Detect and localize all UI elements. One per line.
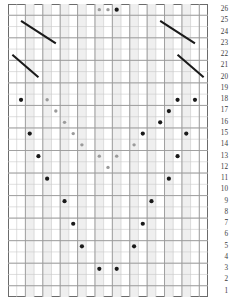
purl-dot [132,244,136,248]
row-label: 21 [221,62,228,69]
purl-dot [158,120,162,124]
row-label: 1 [224,288,228,295]
purl-dot [80,244,84,248]
row-label: 4 [224,254,228,261]
row-label: 8 [224,209,228,216]
row-label: 26 [221,6,228,13]
row-label: 19 [221,85,228,92]
purl-dot [184,131,188,135]
light-dot [98,154,101,157]
purl-dot [71,222,75,226]
chart-grid-svg [8,4,208,297]
row-label: 2 [224,276,228,283]
light-dot [106,166,109,169]
row-label: 23 [221,40,228,47]
light-dot [80,143,83,146]
row-label: 16 [221,119,228,126]
purl-dot [141,222,145,226]
row-label: 13 [221,153,228,160]
light-dot [54,109,57,112]
row-label: 22 [221,51,228,58]
purl-dot [62,199,66,203]
purl-dot [175,98,179,102]
row-label: 20 [221,74,228,81]
row-label: 9 [224,198,228,205]
row-number-labels: 2625242322212019181716151413121110987654… [210,4,230,297]
chart-grid-container[interactable] [8,4,208,297]
light-dot [106,8,109,11]
row-label: 3 [224,265,228,272]
light-dot [63,121,66,124]
purl-dot [175,154,179,158]
light-dot [72,132,75,135]
purl-dot [97,267,101,271]
row-label: 15 [221,130,228,137]
row-label: 24 [221,29,228,36]
purl-dot [115,8,119,12]
light-dot [115,154,118,157]
row-label: 5 [224,243,228,250]
purl-dot [28,131,32,135]
purl-dot [167,109,171,113]
light-dot [98,8,101,11]
purl-dot [36,154,40,158]
row-label: 6 [224,231,228,238]
purl-dot [45,177,49,181]
purl-dot [19,98,23,102]
major-grid-lines [8,4,208,297]
purl-dot [115,267,119,271]
row-label: 25 [221,17,228,24]
row-label: 14 [221,141,228,148]
row-label: 18 [221,96,228,103]
purl-dot [141,131,145,135]
light-dot [132,143,135,146]
purl-dot [149,199,153,203]
row-label: 11 [221,175,228,182]
row-label: 10 [221,186,228,193]
row-label: 12 [221,164,228,171]
purl-dot [167,177,171,181]
row-label: 17 [221,107,228,114]
knitting-chart-page: 2625242322212019181716151413121110987654… [0,0,230,306]
light-dot [45,98,48,101]
row-label: 7 [224,220,228,227]
purl-dot [193,98,197,102]
